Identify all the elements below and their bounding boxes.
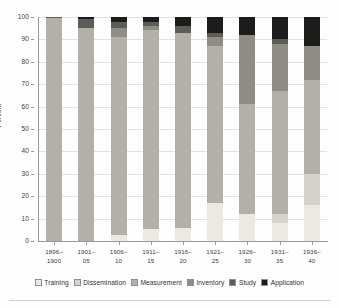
bar-segment-study[interactable] <box>78 19 94 28</box>
bar-segment-measurement[interactable] <box>78 28 94 241</box>
bar-column[interactable] <box>78 17 94 241</box>
bar-segment-measurement[interactable] <box>111 37 127 235</box>
bar-segment-study[interactable] <box>111 22 127 29</box>
bar-segment-training[interactable] <box>143 229 159 241</box>
y-tick-label: 40 <box>22 148 29 155</box>
bar-segment-measurement[interactable] <box>143 30 159 228</box>
y-tick-label: 0 <box>25 238 29 245</box>
bar-segment-training[interactable] <box>207 203 223 241</box>
bar-segment-application[interactable] <box>304 17 320 46</box>
x-tick-label-line1: 1936– <box>292 247 332 256</box>
bar-stack <box>46 17 62 241</box>
bar-segment-measurement[interactable] <box>304 80 320 174</box>
legend-item-dissemination[interactable]: Dissemination <box>74 279 126 286</box>
x-tick-mark <box>280 242 281 245</box>
x-tick-mark <box>183 242 184 245</box>
bar-segment-measurement[interactable] <box>272 91 288 214</box>
y-tick-label: 20 <box>22 193 29 200</box>
y-tick-label: 10 <box>22 215 29 222</box>
bar-segment-measurement[interactable] <box>46 18 62 241</box>
y-tick-mark <box>31 196 34 197</box>
legend-swatch-icon <box>74 279 81 286</box>
y-tick-mark <box>31 174 34 175</box>
bar-stack <box>111 17 127 241</box>
bar-stack <box>304 17 320 241</box>
y-tick-mark <box>31 62 34 63</box>
x-tick-mark <box>119 242 120 245</box>
legend-swatch-icon <box>229 279 236 286</box>
bar-column[interactable] <box>175 17 191 241</box>
bar-segment-training[interactable] <box>304 205 320 241</box>
y-tick-mark <box>31 219 34 220</box>
bar-segment-application[interactable] <box>239 17 255 35</box>
y-tick-mark <box>31 151 34 152</box>
bar-segment-inventory[interactable] <box>272 44 288 91</box>
bar-segment-application[interactable] <box>272 17 288 39</box>
bar-column[interactable] <box>239 17 255 241</box>
y-tick-mark <box>31 39 34 40</box>
bar-segment-training[interactable] <box>272 223 288 241</box>
y-tick-label: 60 <box>22 103 29 110</box>
x-tick-mark <box>86 242 87 245</box>
legend-swatch-icon <box>261 279 268 286</box>
bar-stack <box>78 17 94 241</box>
legend-item-study[interactable]: Study <box>229 279 256 286</box>
bar-segment-inventory[interactable] <box>207 37 223 46</box>
footer-divider <box>9 300 330 301</box>
legend-label: Inventory <box>196 279 224 286</box>
chart-legend: TrainingDisseminationMeasurementInventor… <box>0 279 339 286</box>
bar-segment-inventory[interactable] <box>111 28 127 37</box>
x-axis-tick-labels: 1896–19001901–051906–101911–151916–20192… <box>38 247 328 267</box>
legend-item-training[interactable]: Training <box>35 279 69 286</box>
legend-label: Application <box>271 279 304 286</box>
bar-stack <box>272 17 288 241</box>
x-tick-label-line2: 40 <box>292 256 332 265</box>
y-tick-label: 50 <box>22 126 29 133</box>
legend-item-application[interactable]: Application <box>261 279 304 286</box>
legend-item-measurement[interactable]: Measurement <box>131 279 182 286</box>
legend-label: Dissemination <box>83 279 126 286</box>
bar-segment-training[interactable] <box>175 228 191 241</box>
legend-label: Study <box>239 279 256 286</box>
bar-segment-measurement[interactable] <box>207 46 223 203</box>
legend-item-inventory[interactable]: Inventory <box>187 279 225 286</box>
x-tick-label: 1936–40 <box>292 247 332 265</box>
bar-column[interactable] <box>207 17 223 241</box>
bar-stack <box>239 17 255 241</box>
y-tick-mark <box>31 107 34 108</box>
bar-segment-dissemination[interactable] <box>272 214 288 223</box>
y-tick-mark <box>31 129 34 130</box>
y-tick-label: 70 <box>22 81 29 88</box>
bar-segment-dissemination[interactable] <box>304 174 320 205</box>
bar-segment-inventory[interactable] <box>304 46 320 80</box>
y-tick-label: 100 <box>18 14 29 21</box>
bar-column[interactable] <box>111 17 127 241</box>
legend-label: Measurement <box>140 279 181 286</box>
bar-segment-application[interactable] <box>175 17 191 26</box>
bar-segment-measurement[interactable] <box>239 104 255 214</box>
bar-segment-study[interactable] <box>175 26 191 33</box>
x-tick-mark <box>151 242 152 245</box>
y-axis-tick-labels: 0102030405060708090100 <box>0 17 34 241</box>
bar-column[interactable] <box>272 17 288 241</box>
bar-segment-application[interactable] <box>207 17 223 33</box>
bar-column[interactable] <box>304 17 320 241</box>
x-axis-ticks <box>38 242 328 246</box>
x-tick-mark <box>312 242 313 245</box>
bar-segment-training[interactable] <box>239 214 255 241</box>
y-tick-label: 90 <box>22 36 29 43</box>
y-tick-mark <box>31 241 34 242</box>
x-tick-mark <box>215 242 216 245</box>
bar-segment-training[interactable] <box>111 235 127 241</box>
legend-label: Training <box>44 279 68 286</box>
bar-series-container <box>38 17 328 241</box>
bar-stack <box>207 17 223 241</box>
bar-column[interactable] <box>46 17 62 241</box>
bar-stack <box>143 17 159 241</box>
stacked-bar-chart: Percent 0102030405060708090100 1896–1900… <box>0 0 339 308</box>
bar-column[interactable] <box>143 17 159 241</box>
bar-segment-measurement[interactable] <box>175 33 191 228</box>
x-tick-mark <box>54 242 55 245</box>
y-tick-mark <box>31 84 34 85</box>
bar-segment-inventory[interactable] <box>239 35 255 104</box>
